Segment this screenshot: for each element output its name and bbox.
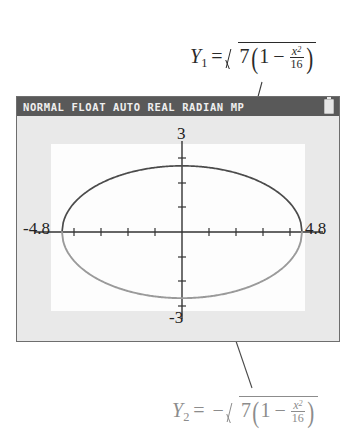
formula-bottom-radicand: 7(1−x216) [239,396,318,427]
formula-bottom-frac-numerator: x2 [291,399,305,413]
x-axis-max-label: 4.8 [305,220,326,237]
formula-bottom-frac-num-exponent: 2 [298,398,302,407]
formula-top-paren-close: ) [306,44,313,73]
formula-top-radical-sign: 7(1−x216) [227,42,317,73]
y-axis-max-label: 3 [177,125,186,142]
formula-top-variable: Y [190,45,201,67]
formula-top-frac-numerator: x2 [290,45,304,59]
x-axis-min-label: -4.8 [23,220,50,237]
formula-top-paren-open: ( [251,44,258,73]
formula-top-coefficient: 7 [240,45,250,67]
formula-top-one: 1 [259,45,269,67]
formula-bottom-leading-minus: − [209,399,228,421]
y-axis-min-label: -3 [169,309,183,326]
annotation-formula-y2: Y2=−7(1−x216) [172,396,318,427]
formula-top-frac-num-exponent: 2 [297,44,301,53]
formula-bottom-one: 1 [261,399,271,421]
calculator-screen: NORMAL FLOAT AUTO REAL RADIAN MP [16,96,340,342]
formula-bottom-minus: − [271,399,290,421]
formula-bottom-fraction: x216 [291,399,305,425]
formula-bottom-equals: = [189,399,208,421]
formula-bottom-frac-denominator: 16 [291,412,305,425]
formula-top-frac-denominator: 16 [290,58,304,71]
formula-bottom-radical-sign: 7(1−x216) [228,396,318,427]
formula-bottom-paren-close: ) [307,398,314,427]
formula-top-fraction: x216 [290,45,304,71]
formula-bottom-variable: Y [172,399,183,421]
formula-bottom-paren-open: ( [252,398,259,427]
annotation-formula-y1: Y1=7(1−x216) [190,42,316,73]
formula-bottom-coefficient: 7 [241,399,251,421]
formula-top-equals: = [207,45,226,67]
formula-top-minus: − [269,45,288,67]
formula-top-radicand: 7(1−x216) [238,42,317,73]
